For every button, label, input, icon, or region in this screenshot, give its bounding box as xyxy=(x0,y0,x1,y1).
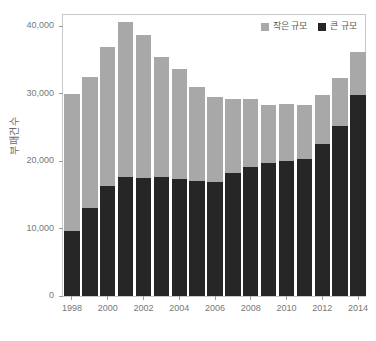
bar-group-2000[interactable] xyxy=(100,47,115,296)
bar-segment-large-scale[interactable] xyxy=(154,177,169,296)
bar-segment-small-scale[interactable] xyxy=(207,97,222,183)
bar-group-2012[interactable] xyxy=(315,95,330,296)
bar-segment-small-scale[interactable] xyxy=(136,35,151,178)
bar-segment-small-scale[interactable] xyxy=(243,99,258,167)
bar-group-2003[interactable] xyxy=(154,57,169,296)
bar-segment-small-scale[interactable] xyxy=(154,57,169,177)
bar-segment-small-scale[interactable] xyxy=(64,94,79,231)
x-tick-label: 1998 xyxy=(62,303,82,313)
y-tick-label: 40,000 xyxy=(26,20,54,30)
bar-segment-small-scale[interactable] xyxy=(82,77,97,208)
bar-segment-large-scale[interactable] xyxy=(82,208,97,296)
x-tick-label: 2014 xyxy=(348,303,368,313)
bar-segment-large-scale[interactable] xyxy=(100,186,115,296)
chart-legend: 작은 규모큰 규모 xyxy=(261,22,357,31)
y-tick-label: 20,000 xyxy=(26,155,54,165)
legend-label: 작은 규모 xyxy=(273,22,308,31)
bar-segment-small-scale[interactable] xyxy=(172,69,187,179)
bar-segment-small-scale[interactable] xyxy=(225,99,240,173)
bar-segment-large-scale[interactable] xyxy=(332,126,347,296)
bar-segment-large-scale[interactable] xyxy=(350,95,365,296)
bar-group-2001[interactable] xyxy=(118,22,133,296)
bar-group-2008[interactable] xyxy=(243,99,258,296)
x-tick-mark xyxy=(179,296,180,300)
bars-layer xyxy=(63,15,365,296)
bar-group-2007[interactable] xyxy=(225,99,240,296)
bar-segment-small-scale[interactable] xyxy=(315,95,330,144)
x-tick-label: 2010 xyxy=(277,303,297,313)
bar-group-2005[interactable] xyxy=(189,87,204,296)
bar-group-2010[interactable] xyxy=(279,104,294,296)
y-tick-label: 10,000 xyxy=(26,223,54,233)
x-tick-mark xyxy=(143,296,144,300)
x-tick-mark xyxy=(107,296,108,300)
y-tick-label: 0 xyxy=(49,290,54,300)
bar-segment-small-scale[interactable] xyxy=(100,47,115,186)
x-tick-label: 2012 xyxy=(312,303,332,313)
bar-group-2004[interactable] xyxy=(172,69,187,296)
legend-swatch-icon xyxy=(318,23,326,31)
x-tick-label: 2002 xyxy=(133,303,153,313)
bar-group-1998[interactable] xyxy=(64,94,79,296)
x-tick-mark xyxy=(71,296,72,300)
bar-group-1999[interactable] xyxy=(82,77,97,296)
bar-group-2002[interactable] xyxy=(136,35,151,296)
bar-segment-large-scale[interactable] xyxy=(118,177,133,296)
x-tick-mark xyxy=(322,296,323,300)
bar-segment-large-scale[interactable] xyxy=(297,159,312,296)
bar-segment-large-scale[interactable] xyxy=(136,178,151,296)
bar-segment-small-scale[interactable] xyxy=(332,78,347,126)
bar-segment-large-scale[interactable] xyxy=(243,167,258,296)
x-tick-label: 2000 xyxy=(98,303,118,313)
y-tick-label: 30,000 xyxy=(26,88,54,98)
bar-segment-large-scale[interactable] xyxy=(64,231,79,296)
legend-item[interactable]: 큰 규모 xyxy=(318,22,357,31)
plot-area: 010,00020,00030,00040,000 19982000200220… xyxy=(62,14,366,297)
bar-segment-large-scale[interactable] xyxy=(315,144,330,296)
bar-group-2013[interactable] xyxy=(332,78,347,296)
legend-label: 큰 규모 xyxy=(330,22,357,31)
legend-swatch-icon xyxy=(261,23,269,31)
bar-group-2011[interactable] xyxy=(297,105,312,296)
bar-segment-small-scale[interactable] xyxy=(261,105,276,162)
bar-segment-large-scale[interactable] xyxy=(207,182,222,296)
legend-item[interactable]: 작은 규모 xyxy=(261,22,308,31)
x-tick-mark xyxy=(250,296,251,300)
bar-segment-small-scale[interactable] xyxy=(189,87,204,181)
x-tick-mark xyxy=(215,296,216,300)
x-tick-label: 2008 xyxy=(241,303,261,313)
bar-segment-small-scale[interactable] xyxy=(297,105,312,159)
x-tick-label: 2006 xyxy=(205,303,225,313)
bar-group-2014[interactable] xyxy=(350,52,365,296)
bar-segment-large-scale[interactable] xyxy=(225,173,240,296)
bar-group-2009[interactable] xyxy=(261,105,276,296)
y-axis-title: 부패건수 xyxy=(6,91,21,181)
bar-segment-small-scale[interactable] xyxy=(279,104,294,161)
bar-segment-large-scale[interactable] xyxy=(189,181,204,296)
x-tick-mark xyxy=(358,296,359,300)
bar-segment-large-scale[interactable] xyxy=(279,161,294,296)
bar-segment-large-scale[interactable] xyxy=(172,179,187,296)
bar-segment-large-scale[interactable] xyxy=(261,163,276,296)
bar-segment-small-scale[interactable] xyxy=(118,22,133,176)
x-tick-mark xyxy=(286,296,287,300)
bar-group-2006[interactable] xyxy=(207,97,222,296)
bar-segment-small-scale[interactable] xyxy=(350,52,365,95)
stacked-bar-chart: 부패건수 010,00020,00030,00040,000 199820002… xyxy=(0,0,376,341)
x-tick-label: 2004 xyxy=(169,303,189,313)
